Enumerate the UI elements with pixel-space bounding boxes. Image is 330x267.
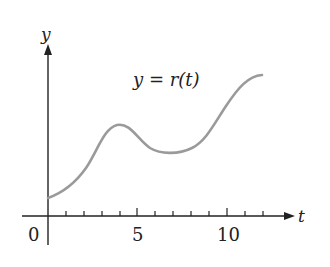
curve-r-of-t — [48, 75, 262, 198]
tick-label-0: 0 — [28, 224, 39, 245]
x-axis-arrow-icon — [284, 212, 295, 220]
curve-label: y = r(t) — [132, 69, 200, 90]
y-axis-label: y — [40, 24, 51, 44]
y-axis-arrow-icon — [44, 44, 52, 55]
tick-label-10: 10 — [217, 224, 240, 245]
x-axis-label: t — [298, 206, 305, 226]
x-axis-ticks — [66, 208, 263, 216]
tick-label-5: 5 — [132, 224, 143, 245]
chart-canvas: y t 0 5 10 y = r(t) — [0, 0, 330, 267]
